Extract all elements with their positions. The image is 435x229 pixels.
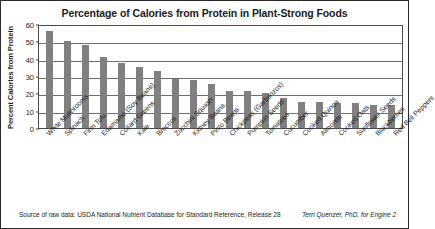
y-axis-title: Percent Calories from Protein [5, 25, 16, 129]
x-axis-tick-labels: White MushroomsSpinachFirm TofuEdamame (… [38, 130, 403, 198]
y-axis-title-label: Percent Calories from Protein [6, 26, 15, 129]
y-axis-tick: 10 [26, 107, 34, 116]
plot-area [38, 25, 403, 129]
y-axis-tick: 50 [26, 38, 34, 47]
y-axis-tick: 0 [30, 125, 34, 134]
bar-slot [40, 26, 58, 128]
chart-title: Percentage of Calories from Protein in P… [1, 7, 408, 19]
y-axis-tick: 60 [26, 21, 34, 30]
bar[interactable] [46, 31, 53, 128]
y-axis-tick: 20 [26, 90, 34, 99]
credit-note: Terri Quenzer, PhD, for Engine 2 [302, 211, 396, 218]
y-axis-tick: 30 [26, 73, 34, 82]
y-axis-tick: 40 [26, 55, 34, 64]
chart-footer: Source of raw data: USDA National Nutrie… [1, 211, 408, 223]
bar-series [39, 26, 402, 128]
y-axis-tick-labels: 6050403020100 [16, 25, 36, 129]
source-note: Source of raw data: USDA National Nutrie… [19, 211, 281, 218]
bar-slot [76, 26, 94, 128]
bar-slot [148, 26, 166, 128]
bar-slot [166, 26, 184, 128]
bar[interactable] [154, 71, 161, 128]
